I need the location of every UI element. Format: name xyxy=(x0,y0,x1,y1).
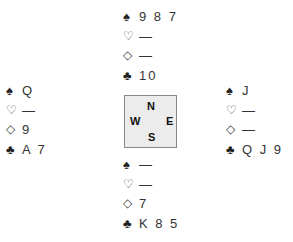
compass-west: W xyxy=(130,115,140,127)
compass-box: N W E S xyxy=(124,95,177,148)
compass-north: N xyxy=(147,100,155,112)
spade-icon: ♠ xyxy=(6,81,22,101)
east-spades: ♠J xyxy=(226,81,283,101)
compass-south: S xyxy=(148,131,155,143)
compass-east: E xyxy=(166,115,173,127)
spade-icon: ♠ xyxy=(123,7,139,27)
diamond-icon: ◇ xyxy=(123,194,139,214)
spade-icon: ♠ xyxy=(226,81,242,101)
heart-icon: ♡ xyxy=(6,101,22,121)
east-hearts: ♡— xyxy=(226,101,283,121)
diamond-icon: ◇ xyxy=(123,46,139,66)
west-diamonds: ◇9 xyxy=(6,120,47,140)
club-icon: ♣ xyxy=(123,66,139,86)
heart-icon: ♡ xyxy=(226,101,242,121)
club-icon: ♣ xyxy=(123,214,139,234)
diamond-icon: ◇ xyxy=(6,120,22,140)
east-hand: ♠J ♡— ◇— ♣Q J 9 xyxy=(226,81,283,159)
north-hearts: ♡— xyxy=(123,27,178,47)
south-spades: ♠— xyxy=(123,155,179,175)
east-clubs: ♣Q J 9 xyxy=(226,140,283,160)
west-hand: ♠Q ♡— ◇9 ♣A 7 xyxy=(6,81,47,159)
north-hand: ♠9 8 7 ♡— ◇— ♣10 xyxy=(123,7,178,85)
club-icon: ♣ xyxy=(6,140,22,160)
west-spades: ♠Q xyxy=(6,81,47,101)
spade-icon: ♠ xyxy=(123,155,139,175)
west-hearts: ♡— xyxy=(6,101,47,121)
south-clubs: ♣K 8 5 xyxy=(123,214,179,234)
heart-icon: ♡ xyxy=(123,27,139,47)
club-icon: ♣ xyxy=(226,140,242,160)
diamond-icon: ◇ xyxy=(226,120,242,140)
heart-icon: ♡ xyxy=(123,175,139,195)
south-hand: ♠— ♡— ◇7 ♣K 8 5 xyxy=(123,155,179,233)
north-spades: ♠9 8 7 xyxy=(123,7,178,27)
south-hearts: ♡— xyxy=(123,175,179,195)
east-diamonds: ◇— xyxy=(226,120,283,140)
west-clubs: ♣A 7 xyxy=(6,140,47,160)
north-diamonds: ◇— xyxy=(123,46,178,66)
south-diamonds: ◇7 xyxy=(123,194,179,214)
north-clubs: ♣10 xyxy=(123,66,178,86)
